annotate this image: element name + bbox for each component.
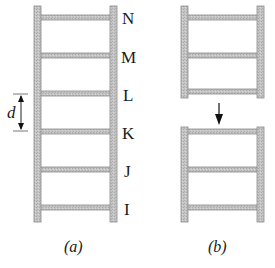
lower-right-rail [257,127,264,222]
rung-lower-1 [187,129,258,134]
rung-label-j: J [124,162,131,181]
rung-i [40,205,111,210]
ladder-diagram: N M L K J I d (a) [0,0,275,268]
rung-label-i: I [124,200,130,219]
caption-b: (b) [208,238,227,256]
left-rail [34,6,41,222]
rung-label-m: M [121,48,136,67]
rung-n [40,15,111,20]
panel-b: (b) [181,6,264,256]
upper-right-rail [257,6,264,98]
ladder-a [34,6,117,222]
rung-m [40,53,111,58]
lower-left-rail [181,127,188,222]
caption-a: (a) [64,238,83,256]
rung-l [40,91,111,96]
rung-lower-3 [187,205,258,210]
rung-j [40,167,111,172]
rung-label-n: N [122,9,134,28]
rung-upper-2 [187,53,258,58]
upper-left-rail [181,6,188,98]
dimension-arrowhead-up-icon [18,95,24,102]
down-arrow-icon [215,103,223,125]
panel-a: N M L K J I d (a) [7,6,136,256]
rung-upper-1 [187,15,258,20]
rung-label-k: K [122,124,135,143]
ladder-b-lower [181,127,264,222]
rung-k [40,129,111,134]
rung-lower-2 [187,167,258,172]
dimension-arrowhead-down-icon [18,123,24,130]
right-rail [110,6,117,222]
spacing-label-d: d [7,103,16,122]
rung-label-l: L [123,86,133,105]
rung-upper-3 [187,89,258,94]
ladder-b-upper [181,6,264,98]
